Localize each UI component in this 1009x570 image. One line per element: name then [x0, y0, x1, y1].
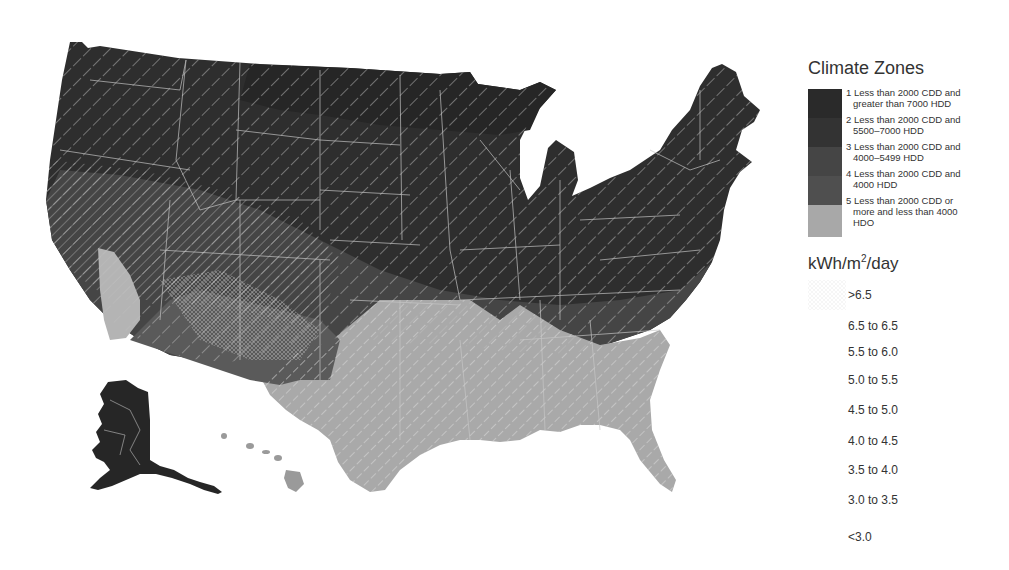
climate-zones-title: Climate Zones	[808, 58, 1008, 79]
kwh-item: <3.0	[848, 530, 872, 544]
kwh-item: 4.5 to 5.0	[848, 403, 898, 417]
hawaii	[221, 433, 304, 492]
kwh-item: 4.0 to 4.5	[848, 434, 898, 448]
zone-4-swatch	[808, 176, 842, 205]
zone-5-swatch	[808, 205, 842, 237]
zone-5-label: 5 Less than 2000 CDD or more and less th…	[846, 195, 1009, 228]
kwh-over-6-5-swatch	[808, 280, 846, 310]
zone-3-swatch	[808, 147, 842, 176]
us-climate-map	[0, 0, 800, 570]
kwh-legend-title: kWh/m2/day	[808, 253, 899, 274]
climate-zones-legend: Climate Zones 1 Less than 2000 CDD and g…	[808, 58, 1008, 253]
contiguous-us	[46, 42, 760, 492]
zone-2-swatch	[808, 118, 842, 147]
kwh-item: 5.5 to 6.0	[848, 345, 898, 359]
zone-2-label: 2 Less than 2000 CDD and 5500–7000 HDD	[846, 114, 1009, 136]
zone-4-label: 4 Less than 2000 CDD and 4000 HDD	[846, 168, 1009, 190]
kwh-item: >6.5	[848, 288, 872, 302]
zone-1-swatch	[808, 89, 842, 118]
kwh-item: 3.5 to 4.0	[848, 463, 898, 477]
kwh-item: 3.0 to 3.5	[848, 493, 898, 507]
alaska	[90, 380, 222, 494]
zone-color-bar	[808, 89, 842, 237]
zone-1-label: 1 Less than 2000 CDD and greater than 70…	[846, 87, 1009, 109]
zone-3-label: 3 Less than 2000 CDD and 4000–5499 HDD	[846, 141, 1009, 163]
kwh-item: 5.0 to 5.5	[848, 373, 898, 387]
kwh-item: 6.5 to 6.5	[848, 319, 898, 333]
